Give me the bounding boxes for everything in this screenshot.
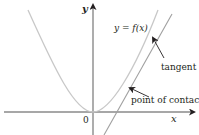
x-axis-label: x <box>171 113 177 124</box>
point-of-contact-label: point of contact <box>131 95 199 105</box>
tangent-diagram: y x 0 y = f(x) tangent point of contact <box>0 0 199 135</box>
tangent-pointer-arrow <box>153 38 164 58</box>
y-axis-label: y <box>81 3 89 14</box>
curve-label: y = f(x) <box>113 23 148 33</box>
tangent-label: tangent <box>161 62 197 72</box>
origin-label: 0 <box>83 115 89 125</box>
